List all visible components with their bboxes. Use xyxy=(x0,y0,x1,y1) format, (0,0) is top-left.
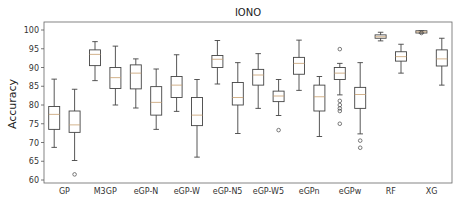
outlier-point xyxy=(338,109,342,113)
box-eGPn-0 xyxy=(294,40,305,90)
box-XG-1 xyxy=(436,38,447,85)
box-eGP-W-1 xyxy=(192,80,203,158)
plot-area xyxy=(44,22,452,183)
box-GP-0 xyxy=(49,79,60,147)
chart-title: IONO xyxy=(235,7,261,18)
x-tick-label: eGPn xyxy=(299,187,320,196)
x-tick-label: GP xyxy=(59,187,70,196)
box-eGP-N-0 xyxy=(130,59,141,108)
y-tick-label: 65 xyxy=(29,157,39,166)
y-tick-label: 80 xyxy=(29,101,39,110)
y-tick-label: 75 xyxy=(29,120,39,129)
x-tick-label: eGP-W xyxy=(174,187,200,196)
x-tick-label: eGP-N xyxy=(134,187,159,196)
outlier-point xyxy=(338,47,342,51)
box-eGP-W5-1 xyxy=(273,80,284,132)
x-axis: GPM3GPeGP-NeGP-WeGP-N5eGP-W5eGPneGPwRFXG xyxy=(59,187,438,196)
box-eGP-N5-0 xyxy=(212,41,223,85)
y-tick-label: 100 xyxy=(24,26,39,35)
box-RF-1 xyxy=(396,44,407,73)
box-eGP-W-0 xyxy=(171,55,182,112)
x-tick-label: eGPw xyxy=(339,187,362,196)
box-eGPw-1 xyxy=(355,63,366,150)
box-eGP-N5-1 xyxy=(232,63,243,134)
outlier-point xyxy=(73,173,77,177)
x-tick-label: XG xyxy=(426,187,438,196)
y-tick-label: 70 xyxy=(29,139,39,148)
box-GP-1 xyxy=(69,89,80,176)
y-axis-title: Accuracy xyxy=(6,78,19,129)
box-eGPn-1 xyxy=(314,77,325,137)
boxes-group xyxy=(49,31,448,176)
box-eGP-N-1 xyxy=(151,69,162,129)
x-tick-label: eGP-N5 xyxy=(213,187,243,196)
box-M3GP-1 xyxy=(110,46,121,105)
y-tick-label: 90 xyxy=(29,64,39,73)
outlier-point xyxy=(338,99,342,103)
y-tick-label: 85 xyxy=(29,82,39,91)
x-tick-label: M3GP xyxy=(94,187,117,196)
outlier-point xyxy=(358,146,362,150)
x-tick-label: eGP-W5 xyxy=(253,187,284,196)
box-RF-0 xyxy=(375,32,386,41)
box-M3GP-0 xyxy=(90,42,101,81)
box-plot-chart: IONO Accuracy 6065707580859095100 GPM3GP… xyxy=(0,0,465,203)
box-XG-0 xyxy=(416,31,427,35)
box-eGPw-0 xyxy=(334,47,345,125)
y-axis: 6065707580859095100 xyxy=(24,26,44,185)
x-tick-label: RF xyxy=(386,187,397,196)
outlier-point xyxy=(358,139,362,143)
outlier-point xyxy=(277,128,281,132)
y-tick-label: 95 xyxy=(29,45,39,54)
y-tick-label: 60 xyxy=(29,176,39,185)
outlier-point xyxy=(338,122,342,126)
box-eGP-W5-0 xyxy=(253,54,264,109)
